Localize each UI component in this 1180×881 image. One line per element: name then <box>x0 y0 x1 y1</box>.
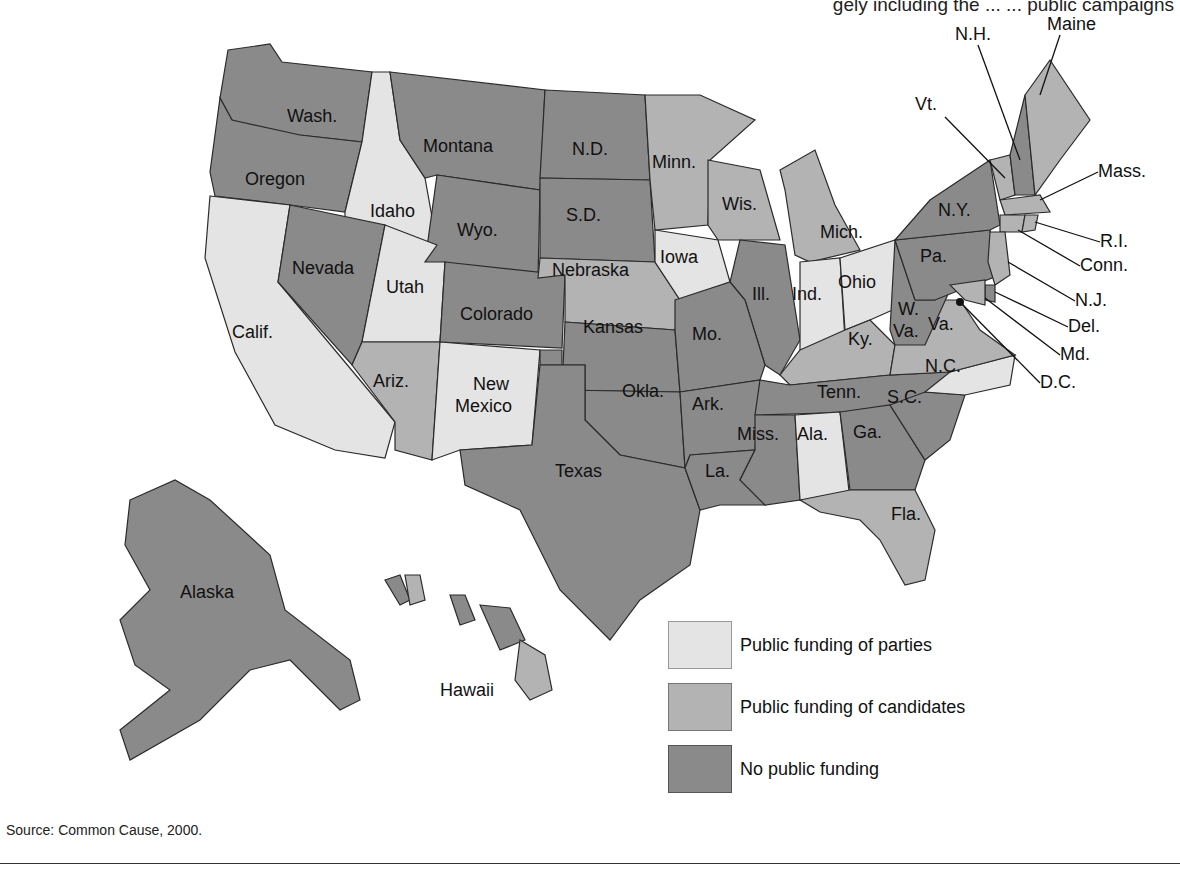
label-la: La. <box>705 461 730 481</box>
state-conn[interactable] <box>1000 215 1025 232</box>
label-minn: Minn. <box>652 152 696 172</box>
state-ri[interactable] <box>1022 215 1038 232</box>
label-mich: Mich. <box>820 222 863 242</box>
label-vt: Vt. <box>915 94 937 114</box>
label-nc: N.C. <box>925 356 961 376</box>
label-ind: Ind. <box>792 284 822 304</box>
legend: Public funding of parties Public funding… <box>668 614 965 800</box>
label-nevada: Nevada <box>292 258 355 278</box>
label-oregon: Oregon <box>245 169 305 189</box>
label-colorado: Colorado <box>460 304 533 324</box>
label-ny: N.Y. <box>938 200 971 220</box>
label-ark: Ark. <box>692 394 724 414</box>
label-wis: Wis. <box>722 194 757 214</box>
label-ga: Ga. <box>853 422 882 442</box>
legend-item-candidates: Public funding of candidates <box>668 676 965 738</box>
state-maine[interactable] <box>1025 60 1090 195</box>
bottom-rule <box>0 863 1180 864</box>
label-wva-1: W. <box>898 299 919 319</box>
label-newmexico-2: Mexico <box>455 396 512 416</box>
us-map: Wash. Oregon Calif. Idaho Nevada Montana… <box>0 0 1180 800</box>
legend-swatch-parties-icon <box>668 621 732 669</box>
label-nj: N.J. <box>1075 290 1107 310</box>
state-hawaii-4 <box>480 605 525 650</box>
label-tenn: Tenn. <box>817 382 861 402</box>
label-iowa: Iowa <box>660 247 699 267</box>
label-nd: N.D. <box>572 139 608 159</box>
source-note: Source: Common Cause, 2000. <box>6 822 202 838</box>
legend-label: Public funding of candidates <box>740 697 965 718</box>
label-md: Md. <box>1060 344 1090 364</box>
label-calif: Calif. <box>232 322 273 342</box>
label-ri: R.I. <box>1100 231 1128 251</box>
label-miss: Miss. <box>737 424 779 444</box>
state-hawaii-3 <box>450 595 475 625</box>
label-va: Va. <box>928 314 954 334</box>
label-dc: D.C. <box>1040 372 1076 392</box>
legend-label: Public funding of parties <box>740 635 932 656</box>
label-ohio: Ohio <box>838 272 876 292</box>
label-nh: N.H. <box>955 24 991 44</box>
label-texas: Texas <box>555 461 602 481</box>
label-ill: Ill. <box>752 284 770 304</box>
label-okla: Okla. <box>622 381 664 401</box>
label-ariz: Ariz. <box>373 371 409 391</box>
legend-item-parties: Public funding of parties <box>668 614 965 676</box>
legend-item-none: No public funding <box>668 738 965 800</box>
label-ala: Ala. <box>797 424 828 444</box>
label-idaho: Idaho <box>370 201 415 221</box>
label-alaska: Alaska <box>180 582 235 602</box>
label-maine: Maine <box>1047 14 1096 34</box>
label-mass: Mass. <box>1098 161 1146 181</box>
label-sd: S.D. <box>566 205 601 225</box>
label-fla: Fla. <box>891 504 921 524</box>
label-conn: Conn. <box>1080 255 1128 275</box>
legend-swatch-candidates-icon <box>668 683 732 731</box>
state-nd[interactable] <box>540 90 650 180</box>
state-hawaii-5 <box>515 640 552 700</box>
label-wyo: Wyo. <box>457 220 498 240</box>
legend-swatch-none-icon <box>668 745 732 793</box>
label-del: Del. <box>1068 316 1100 336</box>
label-wva-2: Va. <box>893 321 919 341</box>
label-ky: Ky. <box>848 329 873 349</box>
label-montana: Montana <box>423 136 494 156</box>
label-nebraska: Nebraska <box>552 260 630 280</box>
label-pa: Pa. <box>920 246 947 266</box>
state-alaska[interactable] <box>120 480 360 760</box>
state-mich[interactable] <box>780 150 860 262</box>
label-mo: Mo. <box>692 324 722 344</box>
label-kansas: Kansas <box>583 317 643 337</box>
label-hawaii: Hawaii <box>440 680 494 700</box>
legend-label: No public funding <box>740 759 879 780</box>
label-utah: Utah <box>386 277 424 297</box>
label-newmexico-1: New <box>473 374 510 394</box>
label-wash: Wash. <box>287 106 337 126</box>
label-sc: S.C. <box>887 387 922 407</box>
